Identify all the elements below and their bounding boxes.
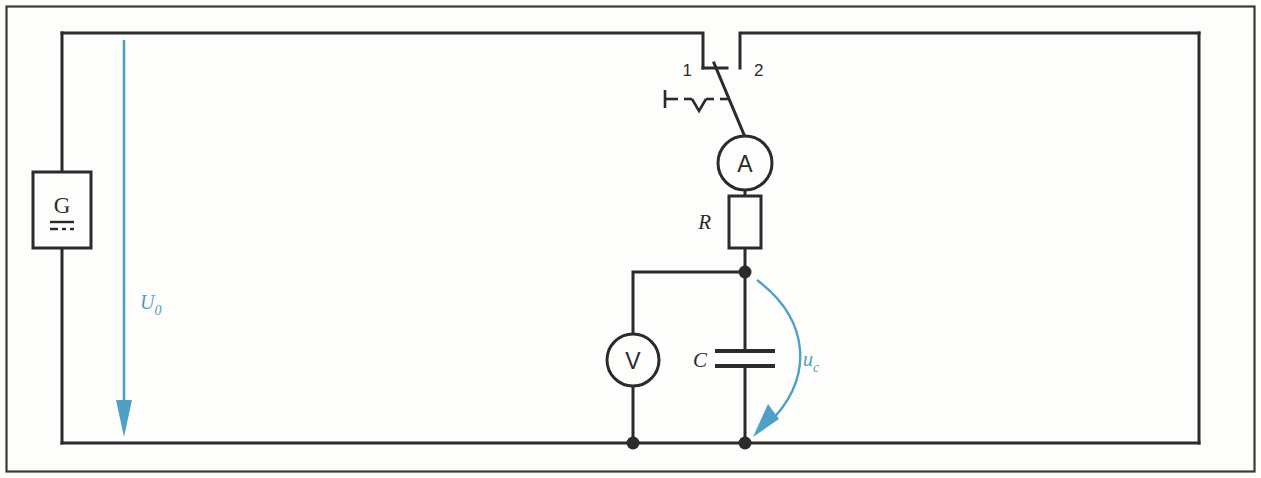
junction-dot-capacitor-bottom — [739, 437, 752, 450]
ammeter-label: A — [737, 151, 753, 177]
junction-dot-voltmeter-bottom — [627, 437, 640, 450]
u0-subscript: 0 — [154, 303, 161, 318]
circuit-schematic: G 1 2 — [0, 0, 1261, 478]
resistor-body — [729, 196, 761, 248]
source-symbol: G — [33, 172, 91, 248]
uc-subscript: c — [813, 360, 820, 375]
switch-contact-1-label: 1 — [683, 61, 692, 80]
voltmeter-symbol: V — [607, 334, 659, 386]
source-label: G — [54, 193, 71, 218]
junction-dot-node-top — [739, 266, 752, 279]
switch-contact-2-label: 2 — [754, 61, 763, 80]
resistor-label: R — [697, 210, 711, 234]
voltmeter-label: V — [625, 348, 641, 374]
circuit-diagram-page: G 1 2 — [0, 0, 1261, 478]
capacitor-label: C — [693, 348, 708, 372]
page-background — [0, 0, 1261, 478]
uc-symbol: u — [803, 348, 813, 370]
ammeter-symbol: A — [718, 136, 772, 190]
